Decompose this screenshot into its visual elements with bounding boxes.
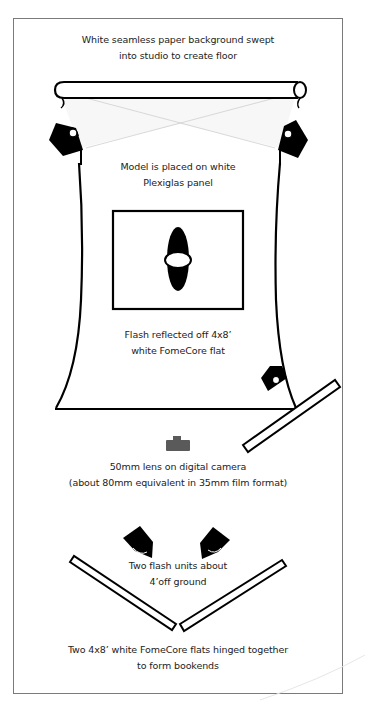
backdrop-label: White seamless paper background swept in… [13, 32, 343, 64]
front-flash-right-icon [200, 527, 230, 559]
front-flash-left-icon [123, 526, 153, 558]
front-flashes-label: Two flash units about 4’off ground [13, 558, 343, 590]
model-label: Model is placed on white Plexiglas panel [13, 159, 343, 191]
bookends-label: Two 4x8’ white FomeCore flats hinged tog… [13, 642, 343, 674]
camera-icon [166, 436, 190, 451]
camera-label: 50mm lens on digital camera (about 80mm … [13, 459, 343, 491]
reflector-label: Flash reflected off 4x8’ white FomeCore … [13, 327, 343, 359]
